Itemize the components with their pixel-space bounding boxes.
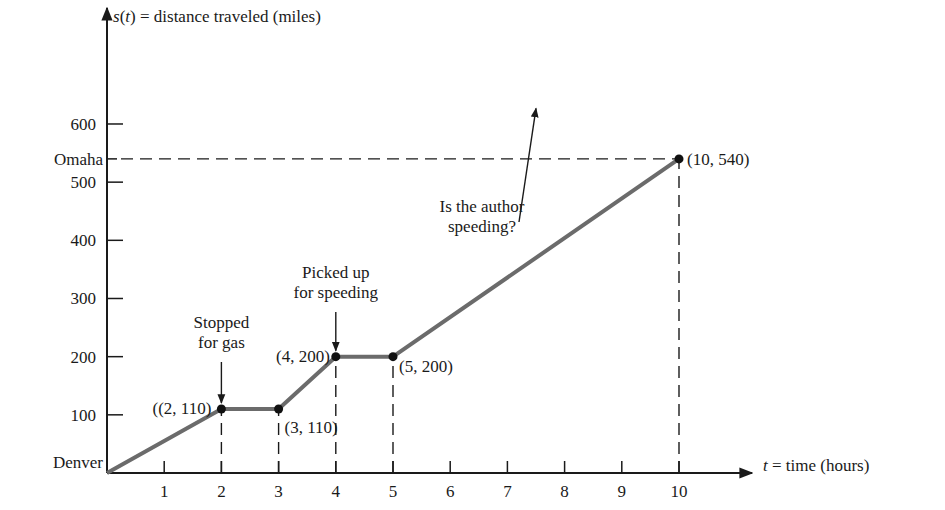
y-tick-label: 600 bbox=[71, 115, 97, 134]
point-label: (10, 540) bbox=[687, 150, 749, 169]
data-point bbox=[331, 352, 340, 361]
y-tick-label: 200 bbox=[71, 348, 97, 367]
annotation-text: Is the authorspeeding? bbox=[440, 197, 525, 236]
annotation-arrow bbox=[519, 108, 536, 222]
y-tick-label: 100 bbox=[71, 406, 97, 425]
data-point bbox=[274, 405, 283, 414]
distance-time-chart: ((2, 110)(3, 110)(4, 200)(5, 200)(10, 54… bbox=[0, 0, 945, 510]
x-tick-label: 9 bbox=[618, 482, 627, 501]
point-label: (5, 200) bbox=[399, 357, 453, 376]
data-point bbox=[389, 352, 398, 361]
annotations: Stoppedfor gasPicked upfor speedingIs th… bbox=[194, 108, 536, 403]
y-named-tick-label: Omaha bbox=[54, 150, 104, 169]
x-tick-label: 6 bbox=[446, 482, 455, 501]
x-tick-label: 10 bbox=[671, 482, 688, 501]
x-tick-label: 5 bbox=[389, 482, 398, 501]
point-label: ((2, 110) bbox=[153, 399, 212, 418]
y-axis-label: s(t) = distance traveled (miles) bbox=[113, 7, 321, 26]
x-tick-label: 1 bbox=[160, 482, 169, 501]
y-named-tick-label: Denver bbox=[53, 453, 103, 472]
x-tick-label: 2 bbox=[217, 482, 226, 501]
annotation-text: Picked upfor speeding bbox=[294, 263, 379, 302]
data-point bbox=[217, 405, 226, 414]
x-tick-label: 7 bbox=[503, 482, 512, 501]
tick-labels: 12345678910100200300400500600DenverOmaha bbox=[53, 115, 688, 501]
data-point bbox=[675, 154, 684, 163]
x-tick-label: 8 bbox=[560, 482, 569, 501]
x-axis-label: t = time (hours) bbox=[763, 456, 869, 475]
x-tick-label: 4 bbox=[332, 482, 341, 501]
point-label: (4, 200) bbox=[276, 347, 330, 366]
x-tick-label: 3 bbox=[274, 482, 283, 501]
annotation-text: Stoppedfor gas bbox=[194, 313, 250, 352]
marked-points: ((2, 110)(3, 110)(4, 200)(5, 200)(10, 54… bbox=[153, 150, 750, 437]
y-tick-label: 300 bbox=[71, 289, 97, 308]
y-tick-label: 400 bbox=[71, 231, 97, 250]
y-tick-label: 500 bbox=[71, 173, 97, 192]
point-label: (3, 110) bbox=[285, 418, 338, 437]
